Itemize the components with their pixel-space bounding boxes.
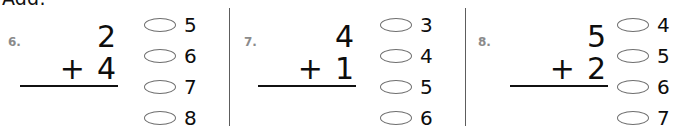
- problem-item-6: 6. 2 + 4 5 6 7 8: [0, 0, 229, 135]
- answer-choice-8-1[interactable]: 4: [617, 9, 670, 40]
- answer-bubble-icon[interactable]: [144, 18, 176, 32]
- operator-row-8: + 2: [510, 54, 608, 84]
- answer-choice-8-4[interactable]: 7: [617, 102, 670, 133]
- problem-number-6: 6.: [8, 36, 21, 48]
- answer-choice-label: 4: [420, 46, 433, 66]
- answer-choice-7-1[interactable]: 3: [380, 9, 433, 40]
- answer-choice-label: 4: [657, 15, 670, 35]
- answer-bubble-icon[interactable]: [144, 111, 176, 125]
- answer-bubble-icon[interactable]: [617, 80, 649, 94]
- answer-bubble-icon[interactable]: [617, 111, 649, 125]
- answer-choices-7: 3 4 5 6: [380, 9, 433, 133]
- answer-choice-7-2[interactable]: 4: [380, 40, 433, 71]
- top-addend-7: 4: [258, 22, 356, 54]
- top-addend-8: 5: [510, 22, 608, 54]
- answer-choice-label: 6: [184, 46, 197, 66]
- problem-number-7: 7.: [244, 36, 257, 48]
- answer-choice-label: 5: [184, 15, 197, 35]
- plus-operator-6: +: [60, 54, 85, 84]
- bottom-addend-6: 4: [97, 54, 116, 84]
- worksheet-page: Add. 6. 2 + 4 5 6 7: [0, 0, 680, 135]
- problem-item-7: 7. 4 + 1 3 4 5 6: [236, 0, 465, 135]
- vertical-sum-6: 2 + 4: [20, 22, 118, 87]
- answer-choice-label: 7: [184, 77, 197, 97]
- answer-choice-label: 6: [420, 108, 433, 128]
- answer-bubble-icon[interactable]: [380, 49, 412, 63]
- column-divider-1: [229, 8, 230, 126]
- answer-choice-6-1[interactable]: 5: [144, 9, 197, 40]
- answer-choice-7-4[interactable]: 6: [380, 102, 433, 133]
- answer-choice-7-3[interactable]: 5: [380, 71, 433, 102]
- bottom-addend-8: 2: [587, 54, 606, 84]
- operator-row-6: + 4: [20, 54, 118, 84]
- answer-choice-label: 6: [657, 77, 670, 97]
- answer-choice-6-4[interactable]: 8: [144, 102, 197, 133]
- answer-choice-label: 5: [420, 77, 433, 97]
- plus-operator-8: +: [550, 54, 575, 84]
- answer-bubble-icon[interactable]: [144, 49, 176, 63]
- problem-item-8: 8. 5 + 2 4 5 6 7: [472, 0, 680, 135]
- top-addend-6: 2: [20, 22, 118, 54]
- column-divider-2: [465, 8, 466, 126]
- operator-row-7: + 1: [258, 54, 356, 84]
- answer-choice-label: 3: [420, 15, 433, 35]
- vertical-sum-8: 5 + 2: [510, 22, 608, 87]
- answer-choices-6: 5 6 7 8: [144, 9, 197, 133]
- plus-operator-7: +: [298, 54, 323, 84]
- answer-bubble-icon[interactable]: [380, 18, 412, 32]
- problem-number-8: 8.: [478, 36, 491, 48]
- answer-choice-label: 8: [184, 108, 197, 128]
- vertical-sum-7: 4 + 1: [258, 22, 356, 87]
- answer-bubble-icon[interactable]: [380, 111, 412, 125]
- answer-bubble-icon[interactable]: [617, 49, 649, 63]
- bottom-addend-7: 1: [335, 54, 354, 84]
- answer-bubble-icon[interactable]: [617, 18, 649, 32]
- answer-choice-label: 7: [657, 108, 670, 128]
- answer-bubble-icon[interactable]: [144, 80, 176, 94]
- answer-bubble-icon[interactable]: [380, 80, 412, 94]
- answer-choices-8: 4 5 6 7: [617, 9, 670, 133]
- answer-choice-8-2[interactable]: 5: [617, 40, 670, 71]
- answer-choice-6-2[interactable]: 6: [144, 40, 197, 71]
- answer-choice-6-3[interactable]: 7: [144, 71, 197, 102]
- answer-choice-label: 5: [657, 46, 670, 66]
- answer-choice-8-3[interactable]: 6: [617, 71, 670, 102]
